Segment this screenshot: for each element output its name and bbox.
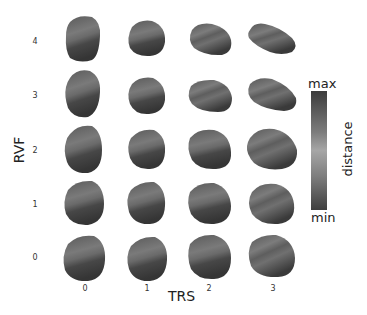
shape-trs2-rvf0 <box>188 235 231 279</box>
x-tick-0: 0 <box>80 284 90 293</box>
x-axis-label: TRS <box>168 288 195 304</box>
row-rvf-2 <box>65 126 297 173</box>
shape-trs2-rvf2 <box>188 130 231 169</box>
row-rvf-4 <box>66 16 296 61</box>
shape-trs1-rvf2 <box>128 130 165 169</box>
figure: 4 3 2 1 0 0 1 2 3 RVF TRS max min distan… <box>0 0 367 315</box>
shape-trs3-rvf1 <box>249 184 294 224</box>
shape-trs1-rvf1 <box>127 182 165 224</box>
y-tick-0: 0 <box>30 253 40 262</box>
row-rvf-0 <box>64 235 295 281</box>
shape-trs3-rvf2 <box>247 129 297 170</box>
x-tick-2: 2 <box>204 284 214 293</box>
shape-trs2-rvf4 <box>190 24 231 56</box>
y-tick-1: 1 <box>30 200 40 209</box>
row-rvf-1 <box>64 181 294 225</box>
shape-trs1-rvf0 <box>127 237 167 281</box>
shape-trs3-rvf4 <box>248 24 295 54</box>
x-tick-1: 1 <box>142 284 152 293</box>
colorbar-max-label: max <box>308 76 336 91</box>
shape-trs0-rvf1 <box>64 181 104 225</box>
colorbar <box>311 91 327 210</box>
y-axis-label: RVF <box>9 135 29 165</box>
shape-trs1-rvf4 <box>128 21 165 57</box>
shape-trs2-rvf3 <box>189 80 232 112</box>
shape-trs3-rvf0 <box>249 235 295 277</box>
shape-trs3-rvf3 <box>248 78 296 111</box>
y-tick-3: 3 <box>30 91 40 100</box>
shape-trs0-rvf2 <box>65 126 102 173</box>
x-tick-3: 3 <box>268 284 278 293</box>
shape-trs0-rvf0 <box>64 236 106 281</box>
shape-trs0-rvf3 <box>65 70 100 117</box>
colorbar-label: distance <box>339 114 357 184</box>
row-rvf-3 <box>65 70 296 117</box>
colorbar-min-label: min <box>311 210 336 225</box>
y-tick-4: 4 <box>30 37 40 46</box>
shape-trs2-rvf1 <box>188 183 231 224</box>
y-tick-2: 2 <box>30 146 40 155</box>
shape-trs0-rvf4 <box>66 16 100 61</box>
shape-trs1-rvf3 <box>128 78 165 114</box>
